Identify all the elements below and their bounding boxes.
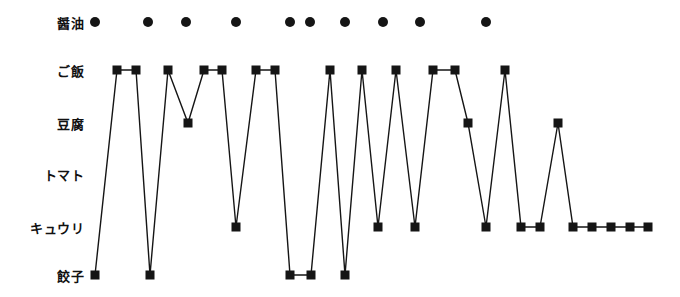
data-point-marker <box>231 17 241 27</box>
data-point-marker <box>184 119 193 128</box>
data-point-marker <box>132 66 141 75</box>
data-point-marker <box>429 66 438 75</box>
data-point-marker <box>482 223 491 232</box>
chart-container: 醤油 ご飯 豆腐 トマト キュウリ 餃子 <box>0 0 680 297</box>
data-point-marker <box>554 119 563 128</box>
data-point-marker <box>232 223 241 232</box>
data-point-marker <box>588 223 597 232</box>
data-point-marker <box>164 66 173 75</box>
data-point-marker <box>358 66 367 75</box>
data-point-marker <box>451 66 460 75</box>
data-point-marker <box>378 17 388 27</box>
data-point-marker <box>536 223 545 232</box>
data-point-marker <box>415 17 425 27</box>
data-point-marker <box>341 271 350 280</box>
data-point-marker <box>271 66 280 75</box>
data-point-marker <box>326 66 335 75</box>
chart-plot-area <box>0 0 680 297</box>
data-point-marker <box>411 223 420 232</box>
data-point-marker <box>626 223 635 232</box>
data-point-marker <box>481 17 491 27</box>
data-point-marker <box>218 66 227 75</box>
data-point-marker <box>305 17 315 27</box>
data-point-marker <box>146 271 155 280</box>
data-point-marker <box>285 17 295 27</box>
data-point-marker <box>374 223 383 232</box>
data-point-marker <box>143 17 153 27</box>
data-point-marker <box>569 223 578 232</box>
data-point-marker <box>607 223 616 232</box>
data-point-marker <box>501 66 510 75</box>
data-point-marker <box>113 66 122 75</box>
series-line-group <box>95 70 648 275</box>
data-point-marker <box>200 66 209 75</box>
series-line-1 <box>95 70 648 275</box>
data-point-marker <box>464 119 473 128</box>
data-point-marker <box>91 271 100 280</box>
data-point-marker <box>307 271 316 280</box>
data-point-marker <box>181 17 191 27</box>
data-point-marker <box>644 223 653 232</box>
data-point-marker <box>517 223 526 232</box>
data-point-marker <box>90 17 100 27</box>
data-point-marker <box>286 271 295 280</box>
data-point-marker <box>252 66 261 75</box>
data-point-marker <box>392 66 401 75</box>
data-point-marker <box>340 17 350 27</box>
series-marker-group <box>90 17 653 280</box>
